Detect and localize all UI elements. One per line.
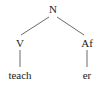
leaf-er: er: [83, 70, 92, 81]
leaf-teach: teach: [8, 70, 31, 81]
node-root: N: [49, 4, 57, 15]
node-v: V: [16, 38, 24, 49]
edge-n-af: [57, 17, 84, 35]
node-af: Af: [81, 38, 93, 49]
edge-n-v: [21, 17, 49, 35]
